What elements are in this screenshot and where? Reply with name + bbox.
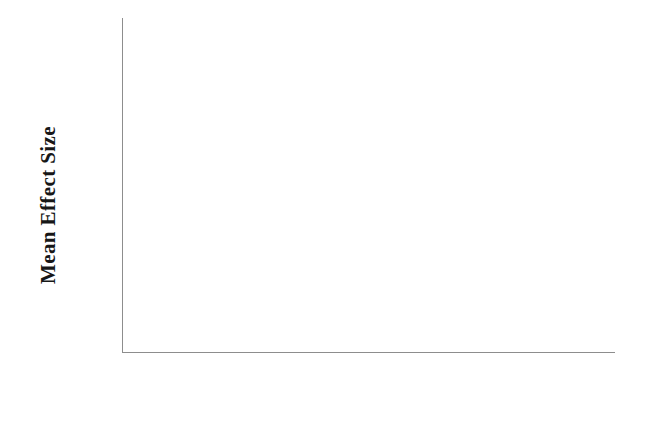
plot-area: 0.49 Internalizing 0.72 Externalizing 0.… — [0, 0, 651, 443]
bar-chart-figure: Mean Effect Size 0.49 Internalizing 0.72… — [0, 0, 651, 443]
